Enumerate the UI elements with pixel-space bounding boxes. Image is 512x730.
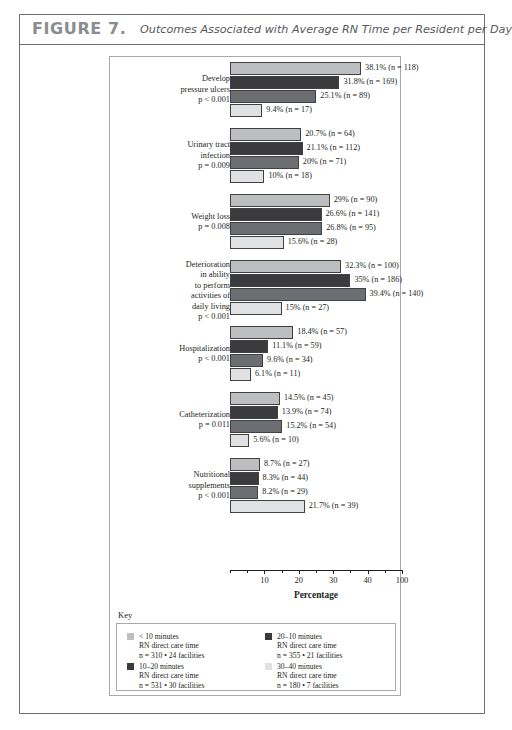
group-label: Deteriorationin abilityto performactivit…	[122, 260, 230, 322]
group-label-line: Urinary tract	[122, 140, 230, 150]
axis-tick-minor	[350, 570, 351, 573]
bar-value-label: 38.1% (n = 118)	[365, 63, 418, 72]
group-label: Hospitalizationp < 0.001	[122, 344, 230, 365]
group-bars: 38.1% (n = 118)31.8% (n = 169)25.1% (n =…	[230, 62, 402, 118]
legend-text-line: RN direct care time	[277, 641, 342, 650]
group-label-line: Nutritional	[122, 470, 230, 480]
bar-value-label: 8.3% (n = 44)	[263, 473, 309, 482]
axis-tick-minor	[316, 570, 317, 573]
axis-tick-label: 20	[295, 576, 303, 585]
bar	[230, 288, 366, 301]
bar-value-label: 9.6% (n = 34)	[267, 355, 313, 364]
axis-title: Percentage	[230, 590, 402, 600]
legend-text-line: 20–10 minutes	[277, 632, 342, 641]
bar	[230, 170, 264, 183]
bar-row: 9.6% (n = 34)	[230, 354, 402, 367]
group-label-line: p = 0.009	[122, 161, 230, 171]
group-label-line: p < 0.001	[122, 491, 230, 501]
legend-text-line: RN direct care time	[139, 671, 204, 680]
bar	[230, 156, 299, 169]
x-axis: 10203040100 Percentage	[230, 570, 402, 610]
bar-value-label: 18.4% (n = 57)	[297, 327, 347, 336]
bar-value-label: 9.4% (n = 17)	[266, 105, 312, 114]
figure-frame: FIGURE 7. Outcomes Associated with Avera…	[19, 14, 485, 714]
bar-value-label: 32.3% (n = 100)	[345, 261, 399, 270]
bar-row: 35% (n = 186)	[230, 274, 402, 287]
bar-value-label: 29% (n = 90)	[334, 195, 378, 204]
bar	[230, 208, 322, 221]
legend: < 10 minutesRN direct care timen = 310 •…	[116, 623, 396, 691]
bar-value-label: 25.1% (n = 89)	[320, 91, 370, 100]
legend-text-line: n = 355 • 21 facilities	[277, 651, 342, 660]
group-label: Catheterizationp = 0.011	[122, 410, 230, 431]
bar-value-label: 13.9% (n = 74)	[282, 407, 332, 416]
group-label: Developpressure ulcersp < 0.001	[122, 74, 230, 105]
axis-tick-minor	[282, 570, 283, 573]
bar	[230, 392, 280, 405]
group-label-line: in ability	[122, 270, 230, 280]
group-label-line: p < 0.001	[122, 95, 230, 105]
legend-text-line: RN direct care time	[277, 671, 339, 680]
bar-value-label: 10% (n = 18)	[268, 171, 312, 180]
legend-text: 20–10 minutesRN direct care timen = 355 …	[277, 632, 342, 660]
bar-row: 15.2% (n = 54)	[230, 420, 402, 433]
bar-row: 20.7% (n = 64)	[230, 128, 402, 141]
chart-group: Nutritionalsupplementsp < 0.0018.7% (n =…	[110, 458, 402, 514]
group-label-line: Catheterization	[122, 410, 230, 420]
bar-row: 25.1% (n = 89)	[230, 90, 402, 103]
bar-value-label: 15% (n = 27)	[286, 303, 330, 312]
bar-row: 21.7% (n = 39)	[230, 500, 402, 513]
bar-row: 15% (n = 27)	[230, 302, 402, 315]
figure-caption: Outcomes Associated with Average RN Time…	[140, 23, 512, 36]
bar	[230, 458, 260, 471]
figure-header: FIGURE 7. Outcomes Associated with Avera…	[20, 15, 484, 45]
legend-text: 10–20 minutesRN direct care timen = 531 …	[139, 662, 204, 690]
group-label-line: supplements	[122, 481, 230, 491]
bar-value-label: 15.6% (n = 28)	[288, 237, 338, 246]
bar	[230, 420, 282, 433]
bar-row: 14.5% (n = 45)	[230, 392, 402, 405]
bar	[230, 354, 263, 367]
chart-group: Hospitalizationp < 0.00118.4% (n = 57)11…	[110, 326, 402, 382]
legend-text-line: n = 180 • 7 facilities	[277, 681, 339, 690]
chart-group: Urinary tractinfectionp = 0.00920.7% (n …	[110, 128, 402, 184]
bar-row: 26.6% (n = 141)	[230, 208, 402, 221]
bar-row: 5.6% (n = 10)	[230, 434, 402, 447]
group-bars: 20.7% (n = 64)21.1% (n = 112)20% (n = 71…	[230, 128, 402, 184]
bar	[230, 368, 251, 381]
group-label-line: activities of	[122, 291, 230, 301]
bar-row: 8.7% (n = 27)	[230, 458, 402, 471]
bar	[230, 236, 284, 249]
figure-number: FIGURE 7.	[32, 19, 126, 38]
bar	[230, 274, 350, 287]
bar	[230, 194, 330, 207]
bar	[230, 142, 303, 155]
axis-tick-label: 100	[396, 576, 409, 585]
bar	[230, 340, 268, 353]
bar-row: 32.3% (n = 100)	[230, 260, 402, 273]
bar-value-label: 31.8% (n = 169)	[343, 77, 397, 86]
group-label-line: Develop	[122, 74, 230, 84]
legend-text-line: RN direct care time	[139, 641, 204, 650]
plot-area: Developpressure ulcersp < 0.00138.1% (n …	[110, 57, 402, 569]
bar-value-label: 35% (n = 186)	[354, 275, 402, 284]
bar-row: 11.1% (n = 59)	[230, 340, 402, 353]
group-label-line: infection	[122, 151, 230, 161]
bar	[230, 104, 262, 117]
bar	[230, 406, 278, 419]
bar	[230, 222, 322, 235]
legend-text: 30–40 minutesRN direct care timen = 180 …	[277, 662, 339, 690]
chart-group: Catheterizationp = 0.01114.5% (n = 45)13…	[110, 392, 402, 448]
bar	[230, 472, 259, 485]
axis-tick-minor	[230, 570, 231, 573]
group-label-line: Weight loss	[122, 212, 230, 222]
legend-text-line: 30–40 minutes	[277, 662, 339, 671]
bar	[230, 260, 341, 273]
group-label-line: p = 0.008	[122, 222, 230, 232]
bar-row: 31.8% (n = 169)	[230, 76, 402, 89]
bar-row: 20% (n = 71)	[230, 156, 402, 169]
legend-swatch	[265, 633, 272, 640]
group-label: Urinary tractinfectionp = 0.009	[122, 140, 230, 171]
axis-tick-major	[333, 570, 334, 574]
group-label-line: pressure ulcers	[122, 85, 230, 95]
